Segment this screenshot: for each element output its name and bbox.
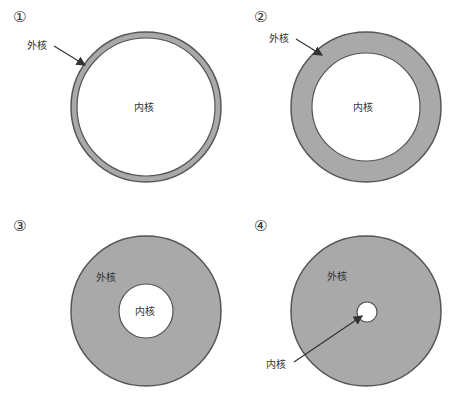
panel-1: ① 外核 内核 — [13, 8, 221, 182]
outer-core-label: 外核 — [96, 271, 116, 283]
panel-number: ④ — [254, 217, 267, 235]
panel-number: ② — [254, 8, 267, 26]
inner-core-label: 内核 — [266, 358, 286, 370]
panel-2: ② 外核 内核 — [254, 8, 441, 182]
inner-core-label: 内核 — [135, 305, 155, 317]
arrow-icon — [296, 39, 322, 55]
outer-core-label: 外核 — [269, 32, 289, 44]
outer-core-label: 外核 — [327, 270, 347, 282]
arrow-icon — [54, 46, 85, 65]
outer-core-label: 外核 — [27, 39, 47, 51]
panel-3: ③ 外核 内核 — [13, 217, 221, 386]
panel-number: ③ — [13, 217, 26, 235]
panel-4: ④ 外核 内核 — [254, 217, 441, 386]
inner-core — [357, 302, 377, 322]
inner-core-label: 内核 — [353, 101, 373, 113]
core-diagram: ① 外核 内核 ② 外核 内核 ③ 外核 内核 ④ 外核 内核 — [0, 0, 456, 399]
inner-core-label: 内核 — [134, 101, 154, 113]
panel-number: ① — [13, 8, 26, 26]
